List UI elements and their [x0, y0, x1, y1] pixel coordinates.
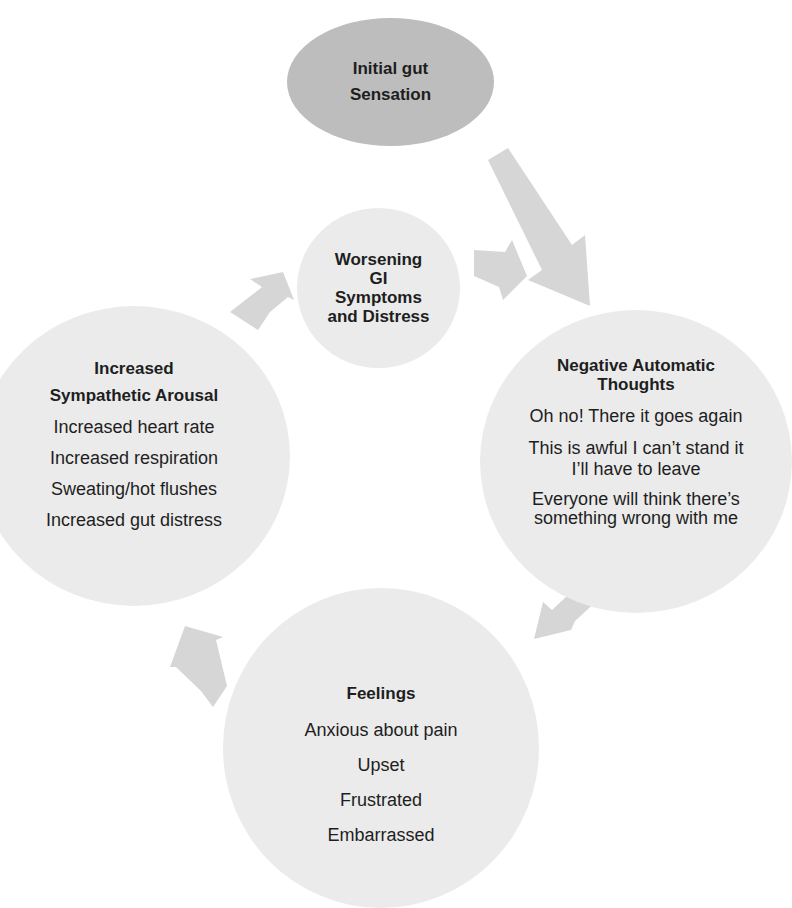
arrow-feelings-to-arousal-icon [170, 626, 227, 707]
arousal-node-title-line2: Sympathetic Arousal [50, 382, 218, 409]
feelings-node: Feelings Anxious about pain Upset Frustr… [223, 588, 539, 908]
center-node-line2: GI [370, 269, 388, 288]
thoughts-node-item: This is awful I can’t stand it [528, 438, 743, 459]
feelings-node-item: Anxious about pain [304, 720, 457, 741]
start-node-initial-gut-sensation: Initial gut Sensation [287, 18, 494, 146]
feelings-node-item: Embarrassed [327, 825, 434, 846]
center-node-line1: Worsening [335, 250, 423, 269]
thoughts-node: Negative Automatic Thoughts Oh no! There… [480, 310, 792, 613]
arrow-arousal-to-center-icon [230, 272, 294, 330]
thoughts-node-title-line2: Thoughts [597, 375, 674, 394]
arousal-node-title-line1: Increased [94, 355, 173, 382]
feelings-node-title: Feelings [347, 683, 416, 705]
center-node-line3: Symptoms [335, 288, 422, 307]
thoughts-node-item: I’ll have to leave [571, 459, 700, 480]
arousal-node-item: Increased respiration [50, 448, 218, 469]
thoughts-node-title-line1: Negative Automatic [557, 356, 715, 375]
arrow-center-to-thoughts-icon [474, 240, 527, 300]
thoughts-node-item: Oh no! There it goes again [530, 406, 743, 427]
start-node-title-line1: Initial gut [353, 56, 429, 82]
feelings-node-item: Frustrated [340, 790, 422, 811]
center-node-line4: and Distress [327, 307, 429, 326]
thoughts-node-item: Everyone will think there’s [532, 490, 740, 509]
arousal-node-item: Increased gut distress [46, 510, 222, 531]
start-node-title-line2: Sensation [350, 82, 431, 108]
arousal-node-item: Sweating/hot flushes [51, 479, 217, 500]
center-node-worsening-gi-symptoms: Worsening GI Symptoms and Distress [297, 208, 460, 368]
thoughts-node-item: something wrong with me [534, 509, 738, 528]
arousal-node-item: Increased heart rate [53, 417, 214, 438]
feelings-node-item: Upset [357, 755, 404, 776]
